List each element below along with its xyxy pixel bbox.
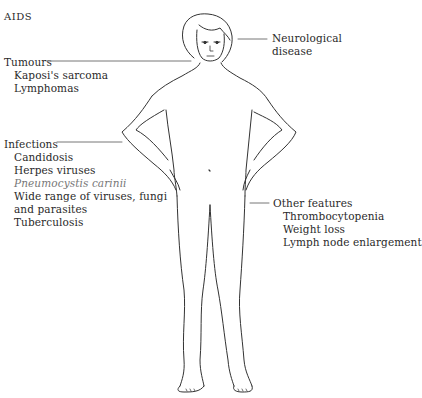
left-eye-icon: [204, 41, 206, 43]
right-eye-icon: [216, 41, 218, 43]
right-arm-inner: [254, 112, 282, 160]
fringe-line: [199, 25, 230, 40]
right-leg-inner: [210, 205, 234, 386]
left-leg-inner: [200, 205, 210, 386]
left-torso-side: [166, 110, 177, 196]
toes: [186, 389, 247, 391]
navel: [209, 170, 210, 171]
right-hand: [243, 170, 250, 190]
right-leg-outer: [239, 196, 252, 386]
left-arm-outer: [122, 96, 176, 190]
left-leg-outer: [177, 196, 185, 386]
left-shoulder: [152, 63, 200, 96]
nose: [210, 46, 213, 51]
right-shoulder: [221, 63, 268, 100]
right-arm-outer: [246, 100, 296, 190]
